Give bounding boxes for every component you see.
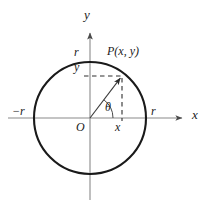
angle-theta-label: θ: [105, 101, 111, 113]
point-p-label: P(x, y): [107, 45, 139, 57]
radius-label-right: r: [151, 105, 156, 117]
x-axis-label: x: [192, 108, 198, 121]
circle-diagram-figure: y x r r −r O y x θ P(x, y): [0, 0, 210, 209]
radius-label-top: r: [74, 46, 79, 58]
origin-label: O: [76, 121, 85, 133]
x-coordinate-label: x: [115, 121, 120, 133]
radius-label-left-negative: −r: [12, 105, 25, 117]
y-axis-label: y: [84, 8, 90, 21]
y-coordinate-label: y: [74, 61, 79, 73]
